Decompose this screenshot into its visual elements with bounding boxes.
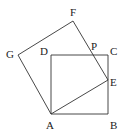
point-label-E: E [110,76,117,88]
point-label-B: B [110,119,117,131]
geometry-diagram: ABCDEFGP [0,0,125,134]
segments [18,21,108,114]
point-label-G: G [6,48,14,60]
point-label-C: C [110,45,117,57]
point-label-A: A [46,119,54,131]
point-label-F: F [70,6,76,18]
point-labels: ABCDEFGP [6,6,117,131]
point-label-P: P [91,40,97,52]
point-label-D: D [40,45,48,57]
segment-AE [51,80,108,114]
segment-GA [18,55,51,114]
